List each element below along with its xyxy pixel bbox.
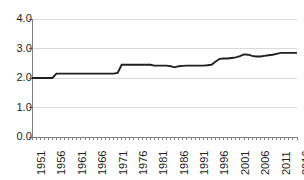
x-axis-tick-label: 2006 <box>260 151 271 175</box>
x-axis-tick-label: 2011 <box>281 151 292 175</box>
x-axis-tick-label: 1996 <box>219 151 230 175</box>
x-axis-tick-label: 1986 <box>179 151 190 175</box>
x-axis-tick-label: 1951 <box>36 151 47 175</box>
x-axis-tick-label: 1971 <box>118 151 129 175</box>
x-axis-tick-label: 1961 <box>77 151 88 175</box>
x-axis-tick-label: 1981 <box>158 151 169 175</box>
x-axis-tick-label: 2016 <box>301 151 304 175</box>
line-chart-figure: 0.01.02.03.04.0 195119561961196619711976… <box>0 0 304 180</box>
x-axis-tick-label: 1956 <box>56 151 67 175</box>
x-axis-tick-label: 2001 <box>240 151 251 175</box>
x-axis-tick-labels: 1951195619611966197119761981198619911996… <box>0 0 304 180</box>
x-axis-tick-label: 1976 <box>138 151 149 175</box>
x-axis-tick-label: 1991 <box>199 151 210 175</box>
x-axis-tick-label: 1966 <box>97 151 108 175</box>
